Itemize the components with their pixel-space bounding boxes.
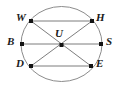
point-marker-e bbox=[89, 64, 93, 68]
point-marker-s bbox=[99, 42, 103, 46]
circle-geometry-figure: WHBUSDE bbox=[0, 0, 120, 87]
point-marker-d bbox=[29, 64, 33, 68]
point-label-s: S bbox=[106, 36, 112, 47]
point-label-d: D bbox=[16, 58, 24, 69]
point-marker-h bbox=[90, 19, 94, 23]
point-label-w: W bbox=[16, 12, 26, 23]
point-marker-b bbox=[20, 42, 24, 46]
point-label-h: H bbox=[96, 12, 105, 23]
point-label-u: U bbox=[55, 28, 63, 39]
point-marker-w bbox=[29, 19, 33, 23]
point-label-b: B bbox=[7, 36, 14, 47]
point-marker-u bbox=[60, 43, 64, 47]
point-label-e: E bbox=[96, 58, 103, 69]
